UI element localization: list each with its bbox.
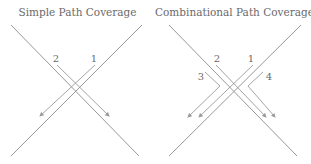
intersection-diagram: 2 1 3 4 bbox=[155, 0, 311, 164]
path-label-2: 2 bbox=[53, 53, 59, 64]
panel-simple-path-coverage: Simple Path Coverage 2 1 bbox=[0, 0, 155, 164]
path-label-3: 3 bbox=[198, 71, 204, 82]
road-lines bbox=[169, 25, 301, 156]
path-label-2: 2 bbox=[214, 53, 220, 64]
road-lines bbox=[11, 25, 142, 156]
intersection-diagram: 2 1 bbox=[0, 0, 155, 164]
path-label-4: 4 bbox=[266, 71, 272, 82]
path-1-arrow bbox=[199, 65, 253, 117]
path-1-arrow bbox=[40, 65, 95, 116]
path-2-arrow bbox=[57, 65, 109, 116]
path-label-1: 1 bbox=[91, 53, 97, 64]
path-2-arrow bbox=[216, 65, 266, 117]
path-label-1: 1 bbox=[248, 53, 254, 64]
panel-combinational-path-coverage: Combinational Path Coverage 2 1 3 4 bbox=[155, 0, 311, 164]
